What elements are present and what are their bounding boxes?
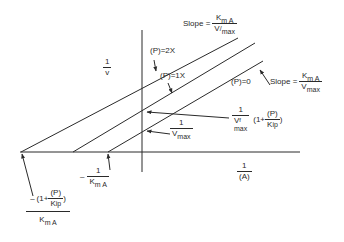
y-intercept-uninhibited-label: 1 Vmax bbox=[170, 119, 193, 138]
arrow-y-intercept-uninhibited bbox=[147, 131, 170, 134]
arrow-y-intercept-inhibited bbox=[147, 112, 229, 118]
slope-right-annotation: Slope = Km A Vmax bbox=[270, 72, 322, 91]
x-axis-label: 1 (A) bbox=[237, 162, 252, 181]
slope-top-annotation: Slope = Km A V/max bbox=[183, 14, 237, 33]
arrow-p-1x bbox=[168, 83, 172, 93]
arrow-p-2x bbox=[154, 60, 156, 71]
arrow-slope-right bbox=[260, 70, 270, 85]
y-axis-label: 1 v bbox=[103, 58, 111, 77]
x-intercept-inhibited-label: – (1+ (P) Kip ) Km A bbox=[26, 189, 70, 224]
line-p-1x bbox=[73, 43, 255, 152]
x-intercept-uninhibited-label: – 1 Km A bbox=[80, 167, 109, 186]
y-intercept-inhibited-label: 1 Vfmax (1+ (P) Kip ) bbox=[232, 106, 283, 133]
label-p-0: (P)=0 bbox=[231, 78, 251, 86]
label-p-2x: (P)=2X bbox=[150, 47, 175, 55]
label-p-1x: (P)=1X bbox=[160, 72, 185, 80]
